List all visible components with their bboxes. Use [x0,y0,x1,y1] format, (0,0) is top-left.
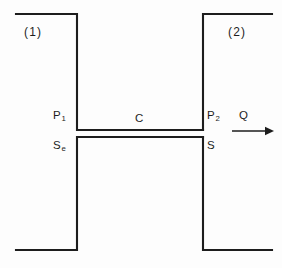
conductance-label: C [135,113,144,125]
speed-se-label: Se [53,140,65,152]
chamber-1-lower-wall [16,137,203,250]
throughput-label: Q [239,110,248,122]
region-2-label: (2) [228,26,246,38]
chamber-2-lower-wall [203,137,272,250]
throughput-arrow-head [265,127,274,135]
conductance-diagram: (1) (2) P1 Se C P2 S Q [0,0,282,268]
throughput-arrow [232,127,274,135]
speed-se-subscript: e [61,144,65,153]
chamber-1-upper-wall [16,14,203,130]
pressure-p2-symbol: P [207,109,215,121]
pressure-p2-subscript: 2 [215,114,219,123]
region-1-label: (1) [24,26,42,38]
pressure-p1-symbol: P [53,109,61,121]
speed-se-symbol: S [53,139,61,151]
diagram-canvas [0,0,282,268]
pressure-p1-label: P1 [53,110,65,122]
speed-s-label: S [207,140,215,152]
pressure-p1-subscript: 1 [61,114,65,123]
pressure-p2-label: P2 [207,110,219,122]
